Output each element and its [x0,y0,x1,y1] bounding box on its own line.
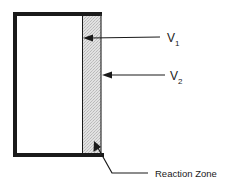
frame-top-wall [13,12,102,16]
reaction-zone-diagram: V1 V2 Reaction Zone [0,0,237,189]
frame-left-wall [13,12,17,157]
frame-bottom-wall [13,153,104,157]
v2-label: V2 [170,69,183,86]
v2-arrow [102,72,165,79]
v1-label: V1 [167,31,180,48]
reaction-zone-label: Reaction Zone [155,168,217,179]
